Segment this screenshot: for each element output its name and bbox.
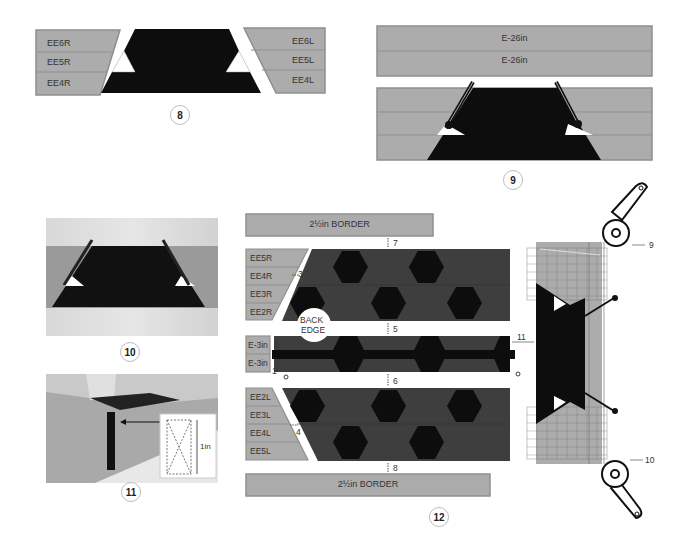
dimension-marker-10: 10 [645,455,654,465]
strip-label-ee2l: EE2L [250,392,271,402]
dimension-marker-3: 3 [298,269,303,279]
back-edge-label-line2: EDGE [301,325,325,335]
strip-label-ee2r: EE2R [250,307,272,317]
top-border-wrap: 2½in BORDER [246,219,433,229]
strip-label-e3in: E-3in [248,358,268,368]
dimension-marker-1: 1 [272,366,277,376]
strip-label-ee4r: EE4R [250,271,272,281]
dimension-marker-7: 7 [393,238,398,248]
bottom-border-label: 2½in BORDER [246,479,490,489]
dimension-marker-6: 6 [393,376,398,386]
dimension-marker-2: 2 [274,340,279,350]
strip-label-ee3r: EE3R [250,289,272,299]
strip-label-ee5l: EE5L [250,446,271,456]
strip-label-e3in: E-3in [248,340,268,350]
strip-label-ee4l: EE4L [250,428,271,438]
dimension-marker-8: 8 [393,463,398,473]
bottom-border-wrap: 2½in BORDER [246,479,490,489]
dimension-marker-4: 4 [296,427,301,437]
strip-label-ee5r: EE5R [250,253,272,263]
strip-label-ee3l: EE3L [250,410,271,420]
dimension-marker-5: 5 [393,324,398,334]
top-border-label: 2½in BORDER [246,219,433,229]
step-12-layout [0,0,682,546]
step-badge-12: 12 [429,507,449,527]
dimension-marker-11: 11 [517,332,526,342]
back-edge-label-line1: BACK [300,315,323,325]
dimension-marker-9: 9 [649,240,654,250]
